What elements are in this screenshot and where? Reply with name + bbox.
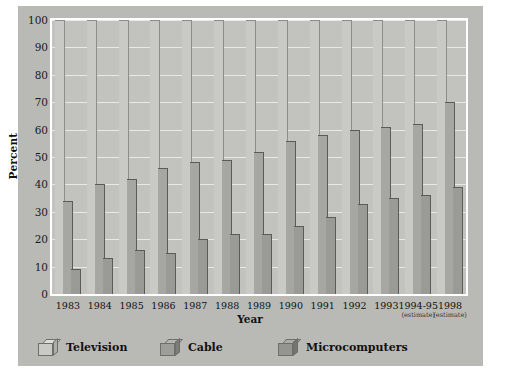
legend-item-microcomputers[interactable]: Microcomputers [278, 336, 408, 358]
bar-microcomputers [230, 234, 240, 294]
bar-group [307, 20, 339, 294]
sw-side-face [175, 338, 180, 356]
x-tick-year: 1986 [151, 300, 175, 311]
bar-face [453, 187, 463, 294]
bar-group [179, 20, 211, 294]
bar-face [198, 239, 208, 294]
sw-side-face [293, 338, 298, 356]
x-axis-title: Year [180, 313, 320, 325]
x-tick-year: 1985 [120, 300, 144, 311]
bar-microcomputers [358, 204, 368, 294]
legend-swatch-cube-icon [38, 339, 58, 356]
bar-group [275, 20, 307, 294]
y-tick-label: 90 [4, 42, 48, 52]
bar-microcomputers [389, 198, 399, 294]
bar-microcomputers [71, 269, 81, 294]
x-tick-year: 1992 [342, 300, 366, 311]
bar-group [211, 20, 243, 294]
x-tick-year: 1993 [374, 300, 398, 311]
bar-group [148, 20, 180, 294]
bar-group [84, 20, 116, 294]
legend-swatch-cube-icon [160, 339, 180, 356]
bar-group [434, 20, 466, 294]
y-axis-title: Percent [7, 126, 19, 186]
sw-front-face [38, 343, 53, 356]
y-tick-label: 100 [4, 15, 48, 25]
bar-face [135, 250, 145, 294]
bar-face [71, 269, 81, 294]
bar-face [389, 198, 399, 294]
bar-group [370, 20, 402, 294]
legend-label: Cable [188, 341, 223, 354]
legend-item-cable[interactable]: Cable [160, 336, 223, 358]
bar-face [358, 204, 368, 294]
bar-group [402, 20, 434, 294]
bar-face [230, 234, 240, 294]
bar-group [243, 20, 275, 294]
x-tick-estimate-note: (estimate) [428, 311, 472, 320]
bar-group [52, 20, 84, 294]
sw-side-face [53, 338, 58, 356]
bar-microcomputers [103, 258, 113, 294]
y-tick-label: 0 [4, 289, 48, 299]
bar-group [116, 20, 148, 294]
legend-item-television[interactable]: Television [38, 336, 127, 358]
x-tick-year: 1990 [279, 300, 303, 311]
sw-front-face [278, 343, 293, 356]
y-tick-label: 80 [4, 70, 48, 80]
bar-microcomputers [262, 234, 272, 294]
bar-face [166, 253, 176, 294]
bar-microcomputers [326, 217, 336, 294]
chart-legend: TelevisionCableMicrocomputers [30, 336, 470, 360]
y-tick-label: 20 [4, 234, 48, 244]
x-tick-year: 1988 [215, 300, 239, 311]
y-tick-label: 10 [4, 262, 48, 272]
x-tick-year: 1989 [247, 300, 271, 311]
x-tick-year: 1998 [438, 300, 462, 311]
x-tick-year: 1983 [56, 300, 80, 311]
legend-label: Microcomputers [306, 341, 408, 354]
bar-microcomputers [166, 253, 176, 294]
x-tick-label: 1998(estimate) [428, 300, 472, 320]
bar-microcomputers [198, 239, 208, 294]
legend-swatch-cube-icon [278, 339, 298, 356]
chart-figure: 0102030405060708090100 Percent 198319841… [0, 0, 507, 377]
bar-face [103, 258, 113, 294]
x-tick-year: 1984 [88, 300, 112, 311]
y-tick-label: 70 [4, 97, 48, 107]
bar-face [326, 217, 336, 294]
sw-front-face [160, 343, 175, 356]
x-tick-year: 1987 [183, 300, 207, 311]
plot-area [52, 20, 466, 294]
bar-face [421, 195, 431, 294]
bar-group [339, 20, 371, 294]
bar-microcomputers [421, 195, 431, 294]
bar-microcomputers [453, 187, 463, 294]
bar-microcomputers [135, 250, 145, 294]
bar-microcomputers [294, 226, 304, 295]
x-tick-year: 1991 [311, 300, 335, 311]
bar-face [262, 234, 272, 294]
bar-face [294, 226, 304, 295]
legend-label: Television [66, 341, 127, 354]
y-axis-tick-labels: 0102030405060708090100 [0, 0, 48, 377]
y-tick-label: 30 [4, 207, 48, 217]
